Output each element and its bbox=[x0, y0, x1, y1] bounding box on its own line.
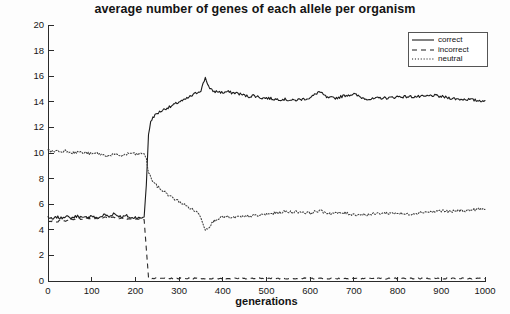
x-tick-label: 800 bbox=[390, 286, 406, 296]
y-tick-label: 16 bbox=[33, 71, 44, 81]
legend-label: incorrect bbox=[438, 46, 469, 54]
legend-label: correct bbox=[438, 36, 462, 44]
y-tick-label: 12 bbox=[33, 123, 44, 133]
legend-item-correct: correct bbox=[411, 36, 484, 45]
series-neutral bbox=[48, 150, 485, 231]
legend-swatch-solid-icon bbox=[411, 36, 435, 44]
y-tick-label: 0 bbox=[39, 276, 44, 286]
legend-item-incorrect: incorrect bbox=[411, 45, 484, 54]
chart-figure: average number of genes of each allele p… bbox=[0, 0, 510, 314]
y-tick-label: 6 bbox=[39, 199, 44, 209]
x-tick-label: 300 bbox=[171, 286, 187, 296]
x-tick-label: 100 bbox=[84, 286, 100, 296]
legend-item-neutral: neutral bbox=[411, 55, 484, 64]
x-tick-label: 700 bbox=[346, 286, 362, 296]
y-tick-label: 2 bbox=[39, 251, 44, 261]
x-tick-label: 400 bbox=[215, 286, 231, 296]
y-tick-label: 10 bbox=[33, 148, 44, 158]
data-series bbox=[48, 77, 485, 279]
series-incorrect bbox=[48, 217, 485, 279]
x-tick-label: 200 bbox=[127, 286, 143, 296]
x-tick-label: 600 bbox=[302, 286, 318, 296]
y-tick-label: 14 bbox=[33, 97, 44, 107]
x-tick-label: 1000 bbox=[474, 286, 495, 296]
x-tick-label: 500 bbox=[259, 286, 275, 296]
y-tick-label: 8 bbox=[39, 174, 44, 184]
y-tick-label: 18 bbox=[33, 46, 44, 56]
y-tick-label: 4 bbox=[39, 225, 44, 235]
legend-label: neutral bbox=[438, 55, 462, 63]
y-tick-label: 20 bbox=[33, 20, 44, 30]
chart-legend: correctincorrectneutral bbox=[408, 32, 488, 67]
legend-swatch-dashed-icon bbox=[411, 46, 435, 54]
series-correct bbox=[48, 77, 485, 219]
legend-swatch-dotted-icon bbox=[411, 55, 435, 63]
x-tick-label: 900 bbox=[433, 286, 449, 296]
chart-title: average number of genes of each allele p… bbox=[0, 2, 510, 16]
x-axis-label: generations bbox=[48, 295, 485, 307]
x-tick-label: 0 bbox=[45, 286, 50, 296]
